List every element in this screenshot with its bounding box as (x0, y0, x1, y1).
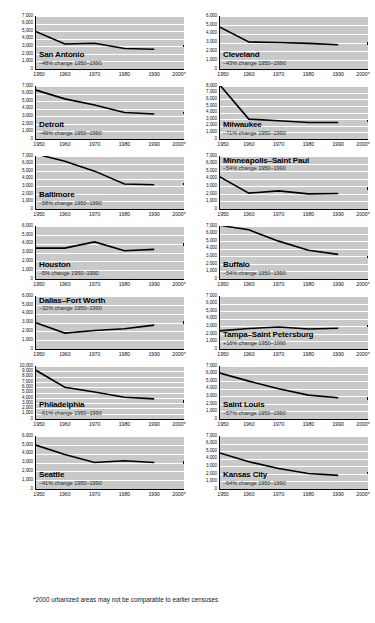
y-tick-label: 5,000 (22, 99, 33, 104)
x-tick-label: 1980 (119, 491, 130, 497)
y-tick-label: 2,000 (22, 406, 33, 411)
y-tick-label: 3,000 (206, 254, 217, 259)
x-tick-label: 2000* (356, 421, 369, 427)
x-tick-label: 1950 (33, 351, 44, 357)
chart-column-right: 01,0002,0003,0004,0005,0006,000195019601… (192, 14, 370, 504)
y-tick-label: 3,000 (22, 250, 33, 255)
x-tick-label: 1980 (303, 141, 314, 147)
y-tick-label: 4,000 (22, 396, 33, 401)
y-tick-label: 3,000 (206, 184, 217, 189)
y-tick-label: 1,000 (206, 479, 217, 484)
year-2000-marker (367, 325, 368, 327)
y-tick-label: 4,000 (206, 386, 217, 391)
x-tick-label: 1960 (243, 211, 254, 217)
y-tick-label: 6,000 (206, 371, 217, 376)
y-axis-labels: 01,0002,0003,0004,0005,0006,0007,000 (8, 14, 33, 70)
city-name-label: Philadelphia (39, 400, 84, 409)
y-tick-label: 5,000 (206, 449, 217, 454)
y-tick-label: 5,000 (206, 239, 217, 244)
y-tick-label: 6,000 (206, 14, 217, 19)
y-tick-label: 6,000 (22, 21, 33, 26)
y-tick-label: 2,000 (206, 49, 217, 54)
y-tick-label: 7,000 (206, 294, 217, 299)
year-2000-marker (183, 321, 184, 323)
x-tick-label: 1960 (59, 281, 70, 287)
y-tick-label: 2,000 (22, 192, 33, 197)
x-tick-label: 2000* (172, 71, 185, 77)
y-tick-label: 2,000 (206, 262, 217, 267)
x-axis-labels: 195019601970198019902000* (35, 211, 184, 219)
x-axis-line (35, 349, 184, 350)
y-tick-label: 9,000 (22, 369, 33, 374)
x-axis-labels: 195019601970198019902000* (35, 421, 184, 429)
x-tick-label: 1980 (119, 281, 130, 287)
x-tick-label: 1980 (303, 351, 314, 357)
x-tick-label: 1950 (217, 211, 228, 217)
y-tick-label: 5,000 (22, 233, 33, 238)
y-tick-label: 3,000 (22, 184, 33, 189)
y-tick-label: 7,000 (22, 14, 33, 19)
y-tick-label: 3,000 (22, 460, 33, 465)
city-name-label: San Antonio (39, 50, 84, 59)
y-tick-label: 7,000 (206, 154, 217, 159)
y-tick-label: 2,000 (206, 332, 217, 337)
y-tick-label: 8,000 (206, 84, 217, 89)
y-tick-label: 5,000 (22, 390, 33, 395)
x-axis-line (35, 489, 184, 490)
y-tick-label: 5,000 (22, 443, 33, 448)
x-tick-label: 1960 (59, 421, 70, 427)
x-tick-label: 1950 (217, 421, 228, 427)
year-2000-marker (367, 120, 368, 122)
x-tick-label: 1970 (273, 491, 284, 497)
x-tick-label: 1980 (119, 351, 130, 357)
y-tick-label: 7,000 (206, 90, 217, 95)
y-axis-line (219, 366, 220, 419)
city-name-label: Milwaukee (223, 120, 262, 129)
y-tick-label: 7,000 (206, 224, 217, 229)
city-name-label: Tampa–Saint Petersburg (223, 330, 313, 339)
y-tick-label: 1,000 (22, 59, 33, 64)
x-tick-label: 1950 (33, 421, 44, 427)
y-tick-label: 1,000 (206, 339, 217, 344)
x-axis-labels: 195019601970198019902000* (219, 491, 368, 499)
x-tick-label: 1950 (217, 281, 228, 287)
percent-change-label: –71% change 1950–1990 (223, 130, 286, 136)
y-tick-label: 7,000 (22, 154, 33, 159)
x-tick-label: 1980 (119, 141, 130, 147)
x-tick-label: 1980 (119, 71, 130, 77)
y-tick-label: 4,000 (206, 246, 217, 251)
percent-change-label: –61% change 1950–1990 (39, 410, 102, 416)
x-axis-labels: 195019601970198019902000* (219, 281, 368, 289)
y-tick-label: 5,000 (206, 23, 217, 28)
x-tick-label: 1990 (149, 491, 160, 497)
y-tick-label: 4,000 (22, 176, 33, 181)
x-axis-labels: 195019601970198019902000* (219, 351, 368, 359)
x-axis-line (219, 69, 368, 70)
year-2000-marker (183, 183, 184, 185)
y-axis-labels: 01,0002,0003,0004,0005,0006,0007,000 (192, 434, 217, 490)
x-tick-label: 1990 (333, 141, 344, 147)
year-2000-marker (183, 112, 184, 114)
x-tick-label: 2000* (356, 71, 369, 77)
x-tick-label: 1980 (119, 421, 130, 427)
y-tick-label: 2,000 (206, 402, 217, 407)
x-axis-line (219, 489, 368, 490)
y-tick-label: 4,000 (22, 311, 33, 316)
y-tick-label: 1,000 (22, 478, 33, 483)
y-tick-label: 7,000 (22, 380, 33, 385)
x-tick-label: 1970 (89, 211, 100, 217)
y-tick-label: 5,000 (22, 303, 33, 308)
y-axis-line (35, 226, 36, 279)
x-tick-label: 1980 (303, 211, 314, 217)
x-tick-label: 1990 (333, 351, 344, 357)
x-tick-label: 1990 (149, 281, 160, 287)
y-axis-line (219, 226, 220, 279)
urbanized-density-small-multiples: 01,0002,0003,0004,0005,0006,0007,0001950… (0, 0, 375, 623)
x-tick-label: 1990 (149, 421, 160, 427)
x-axis-line (35, 139, 184, 140)
y-tick-label: 1,000 (206, 269, 217, 274)
year-2000-marker (367, 42, 368, 44)
y-tick-label: 1,000 (22, 268, 33, 273)
x-tick-label: 1970 (273, 141, 284, 147)
x-tick-label: 1950 (217, 71, 228, 77)
